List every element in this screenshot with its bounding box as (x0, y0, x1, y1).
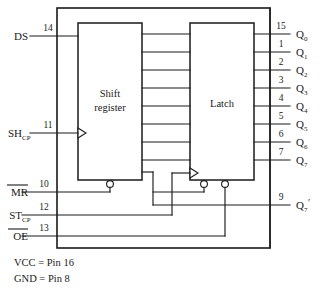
output-label-q2-subscript: 2 (304, 71, 308, 79)
output-label-q5-base: Q (296, 118, 304, 130)
note-vcc: VCC = Pin 16 (14, 257, 74, 268)
pin-number-14: 14 (43, 23, 53, 33)
pin-number-q2: 2 (279, 57, 284, 67)
output-label-q7: Q 7 (296, 154, 308, 169)
output-label-q0-subscript: 0 (304, 35, 308, 43)
output-label-q7-prime: Q 7 ′ (296, 197, 310, 214)
input-label-oe: OE (8, 229, 28, 242)
pin-number-q4: 4 (279, 93, 284, 103)
output-label-q6-base: Q (296, 136, 304, 148)
output-label-q1-base: Q (296, 46, 304, 58)
output-label-q3-subscript: 3 (304, 89, 308, 97)
pin-number-q6: 6 (279, 129, 284, 139)
output-label-q7-subscript: 7 (304, 161, 308, 169)
output-label-q5-subscript: 5 (304, 125, 308, 133)
output-label-q2: Q 2 (296, 64, 308, 79)
input-label-stcp-subscript: CP (22, 216, 31, 224)
pin-number-q0: 15 (276, 21, 286, 31)
output-label-q0: Q 0 (296, 28, 308, 43)
output-label-q7-base: Q (296, 154, 304, 166)
input-label-mr-base: MR (11, 186, 29, 198)
input-label-stcp-base: ST (9, 209, 22, 221)
pin-number-10: 10 (39, 179, 49, 189)
note-gnd: GND = Pin 8 (14, 273, 70, 284)
output-label-q4-subscript: 4 (304, 107, 308, 115)
input-label-ds: DS (14, 30, 28, 42)
pin-number-12: 12 (39, 202, 49, 212)
input-label-shcp-base: SH (8, 127, 22, 139)
output-label-q6: Q 6 (296, 136, 308, 151)
output-label-q7-prime-base: Q (296, 199, 304, 211)
pin-number-q7-prime: 9 (279, 192, 284, 202)
output-label-q4-base: Q (296, 100, 304, 112)
output-label-q6-subscript: 6 (304, 143, 308, 151)
input-label-shcp: SH CP (8, 127, 31, 142)
output-label-q2-base: Q (296, 64, 304, 76)
input-label-stcp: ST CP (9, 209, 31, 224)
output-label-q3: Q 3 (296, 82, 308, 97)
block-diagram: Shift register Latch (0, 0, 322, 288)
pin-number-13: 13 (39, 223, 49, 233)
output-label-q7-prime-mark: ′ (308, 197, 310, 208)
pin-number-q7: 7 (279, 147, 284, 157)
output-label-q4: Q 4 (296, 100, 308, 115)
output-label-q0-base: Q (296, 28, 304, 40)
pin-number-q1: 1 (279, 39, 284, 49)
label-layer: DS SH CP MR ST CP OE 14 11 10 12 13 15 1… (0, 0, 322, 288)
input-label-shcp-subscript: CP (22, 134, 31, 142)
pin-number-11: 11 (43, 120, 52, 130)
input-label-oe-base: OE (13, 230, 28, 242)
output-label-q5: Q 5 (296, 118, 308, 133)
pin-number-q3: 3 (279, 75, 284, 85)
output-label-q1: Q 1 (296, 46, 308, 61)
pin-number-q5: 5 (279, 111, 284, 121)
output-label-q1-subscript: 1 (304, 53, 308, 61)
input-label-mr: MR (7, 185, 29, 198)
output-label-q3-base: Q (296, 82, 304, 94)
